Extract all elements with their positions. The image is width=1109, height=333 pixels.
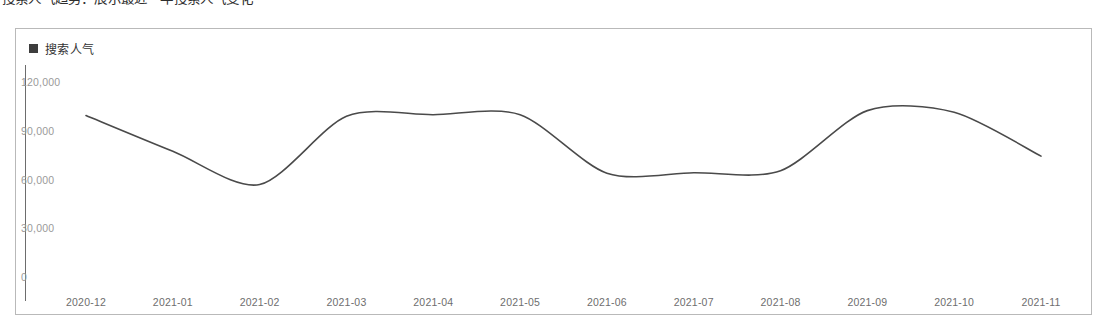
cut-off-heading-row: 搜索人气趋势：展示最近一年搜索人气变化 [0, 0, 1109, 16]
line-chart-svg [16, 29, 1093, 316]
y-axis-tick-label: 90,000 [21, 125, 81, 137]
plot-area: 030,00060,00090,000120,000 2020-122021-0… [16, 29, 1093, 316]
y-axis-tick-label: 60,000 [21, 174, 81, 186]
y-axis-tick-label: 0 [21, 271, 81, 283]
x-axis-tick-label: 2021-02 [240, 296, 280, 308]
x-axis-tick-label: 2021-07 [674, 296, 714, 308]
x-axis-tick-label: 2021-03 [326, 296, 366, 308]
x-axis-tick-label: 2021-10 [934, 296, 974, 308]
x-axis-tick-label: 2021-11 [1021, 296, 1060, 308]
x-axis-tick-label: 2021-08 [761, 296, 801, 308]
x-axis-tick-label: 2021-05 [500, 296, 540, 308]
chart-card: 搜索人气 030,00060,00090,000120,000 2020-122… [15, 28, 1092, 315]
x-axis-tick-label: 2021-01 [153, 296, 193, 308]
x-axis-tick-label: 2021-06 [587, 296, 627, 308]
y-axis-tick-label: 30,000 [21, 222, 81, 234]
x-axis-tick-label: 2021-09 [847, 296, 887, 308]
x-axis-tick-label: 2021-04 [413, 296, 453, 308]
x-axis-tick-label: 2020-12 [66, 296, 106, 308]
y-axis-tick-label: 120,000 [21, 76, 81, 88]
cut-off-heading-text: 搜索人气趋势：展示最近一年搜索人气变化 [2, 0, 253, 7]
series-line-搜索人气 [86, 106, 1041, 185]
scan-fade-overlay [0, 9, 1109, 16]
